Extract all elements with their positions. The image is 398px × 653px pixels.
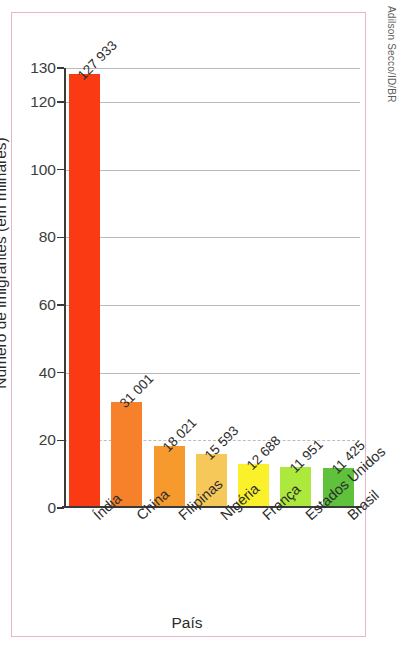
x-axis-category-labels: ÍndiaChinaFilipinasNigériaFrançaEstados … bbox=[64, 512, 364, 612]
y-axis-tick bbox=[57, 169, 64, 170]
bar[interactable] bbox=[111, 402, 142, 507]
y-axis-tick-label: 0 bbox=[47, 500, 56, 516]
gridline bbox=[64, 373, 360, 374]
y-axis-tick bbox=[57, 372, 64, 373]
plot-inner: 127 93331 00118 02115 59312 68811 95111 … bbox=[64, 68, 360, 508]
y-axis-tick-label: 40 bbox=[39, 365, 56, 381]
y-axis-tick-label: 100 bbox=[30, 162, 56, 178]
y-axis-tick-label: 130 bbox=[30, 60, 56, 76]
y-axis-tick bbox=[57, 237, 64, 238]
gridline bbox=[64, 170, 360, 171]
y-axis-tick-label: 60 bbox=[39, 297, 56, 313]
y-axis-title: Número de imigrantes (em milhares) bbox=[0, 98, 10, 428]
image-credit: Adilson Secco/ID/BR bbox=[386, 6, 397, 103]
y-axis-tick bbox=[57, 101, 64, 102]
y-axis-tick bbox=[57, 507, 64, 508]
y-axis-tick bbox=[57, 440, 64, 441]
y-axis-tick-label: 80 bbox=[39, 229, 56, 245]
bar[interactable] bbox=[69, 74, 100, 507]
y-axis-tick bbox=[57, 67, 64, 68]
plot-area: 127 93331 00118 02115 59312 68811 95111 … bbox=[64, 68, 360, 508]
y-axis-tick bbox=[57, 304, 64, 305]
y-axis-tick-labels: 020406080100120130 bbox=[12, 68, 56, 508]
page-title: dos imigrantes (2024) bbox=[18, 0, 348, 2]
gridline bbox=[64, 68, 360, 69]
gridline bbox=[64, 305, 360, 306]
x-axis-title: País bbox=[0, 614, 374, 632]
y-axis-tick-label: 20 bbox=[39, 432, 56, 448]
y-axis-line bbox=[64, 68, 66, 508]
gridline bbox=[64, 102, 360, 103]
y-axis-tick-label: 120 bbox=[30, 94, 56, 110]
gridline bbox=[64, 237, 360, 238]
